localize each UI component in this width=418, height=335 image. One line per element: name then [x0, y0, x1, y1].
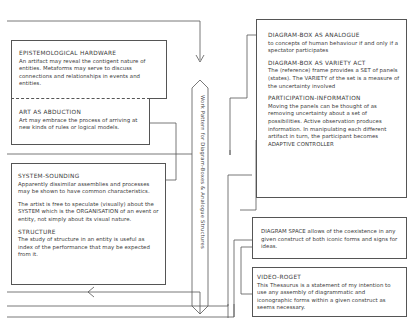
variety-title: DIAGRAM-BOX AS VARIETY ACT — [268, 60, 400, 68]
box-epistemological-hardware: EPISTEMOLOGICAL HARDWARE An artifact may… — [11, 40, 167, 99]
box-body: An artifact may reveal the contigent nat… — [19, 58, 160, 88]
box-title: ART AS ABDUCTION — [19, 109, 143, 117]
box-video-roget: VIDEO-ROGET This Thesaurus is a statemen… — [252, 267, 407, 317]
box-body: to concepts of human behaviour if and on… — [268, 40, 400, 55]
structure-title: STRUCTURE — [18, 229, 160, 237]
box-title: DIAGRAM-BOX AS ANALOGUE — [268, 32, 400, 40]
structure-body: The study of structure in an entity is u… — [18, 236, 160, 259]
box-body: Apparently dissimilar assemblies and pro… — [18, 181, 160, 196]
participation-title: PARTICIPATION-INFORMATION — [268, 95, 400, 103]
box-system-sounding: SYSTEM-SOUNDING Apparently dissimilar as… — [11, 163, 166, 285]
box-title: VIDEO-ROGET — [257, 274, 400, 282]
participation-body: Moving the panels can be thought of as r… — [268, 103, 400, 149]
box-diagram-analogue: DIAGRAM-BOX AS ANALOGUE to concepts of h… — [256, 19, 407, 198]
box-title: SYSTEM-SOUNDING — [18, 173, 160, 181]
connector-space — [241, 247, 252, 294]
box-body: DIAGRAM SPACE allows of the coexistence … — [261, 228, 400, 251]
box-title: EPISTEMOLOGICAL HARDWARE — [19, 50, 160, 58]
box-body: Art may embrace the process of arriving … — [19, 117, 143, 132]
connector-right-top — [230, 35, 256, 155]
box-body: This Thesaurus is a statement of my inte… — [257, 282, 400, 312]
box-art-as-abduction: ART AS ABDUCTION Art may embrace the pro… — [11, 98, 150, 145]
variety-body: The (reference) frame provides a SET of … — [268, 67, 400, 90]
work-pattern-label: Work Pattern for Diagram-Boxes & Analogu… — [196, 95, 206, 285]
box-diagram-space: DIAGRAM SPACE allows of the coexistence … — [252, 217, 407, 259]
connector-return — [7, 292, 200, 314]
box-body: The artist is free to speculate (visuall… — [18, 201, 160, 224]
